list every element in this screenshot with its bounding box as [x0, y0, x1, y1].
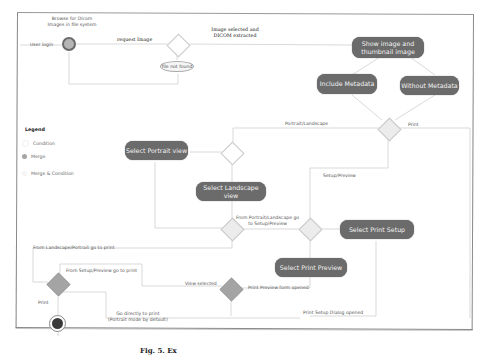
actor-label: User login	[30, 42, 53, 48]
edge-view-selected: View selected	[185, 281, 217, 287]
legend-item-merge: Merge	[22, 154, 45, 159]
initial-node	[62, 37, 76, 51]
node-select-print-preview: Select Print Preview	[275, 258, 347, 277]
edge-from-landscape-portrait-to-print: From Landscape/Portrait go to print	[33, 245, 114, 251]
edge-print: Print	[408, 122, 419, 128]
node-include-metadata: Include Metadata	[317, 74, 377, 94]
legend-title: Legend	[25, 127, 45, 132]
figure-caption: Fig. 5. Ex	[140, 346, 177, 355]
merge-condition-swatch-icon	[22, 171, 27, 176]
node-select-portrait: Select Portrait view	[125, 141, 188, 160]
edge-request-image: request Image	[117, 37, 152, 43]
edge-go-directly-to-print: Go directly to print (Portrait mode by d…	[108, 311, 168, 322]
guard-file-not-found: file not found	[160, 61, 194, 72]
edge-print-preview-form-opened: Print Preview form opened	[248, 285, 309, 291]
final-node	[49, 315, 66, 332]
edge-print-setup-dialog-opened: Print Setup Dialog opened	[303, 310, 363, 316]
edge-portrait-landscape: Portrait/Landscape	[285, 121, 328, 127]
edge-image-selected: Image selected and DICOM extracted	[205, 27, 265, 38]
node-without-metadata: Without Metadata	[400, 76, 459, 95]
merge-swatch-icon	[22, 154, 27, 159]
start-note: Browse for Dicom Images in file system	[42, 16, 102, 27]
condition-swatch-icon	[22, 140, 29, 147]
edge-from-setup-preview-to-print: From Setup/Preview go to print	[66, 268, 137, 274]
node-select-print-setup: Select Print Setup	[340, 220, 414, 239]
edge-from-portrait-landscape-to-setup: From Portrait/Landscape go to Setup/Prev…	[236, 215, 299, 226]
legend-item-merge-condition: Merge & Condition	[22, 171, 74, 176]
node-show-image: Show image and thumbnail image	[352, 37, 424, 58]
edge-print-final: Print	[38, 300, 49, 306]
edge-setup-preview: Setup/Preview	[323, 173, 356, 179]
legend-label: Merge & Condition	[31, 171, 74, 176]
node-select-landscape: Select Landscape view	[196, 182, 266, 201]
legend-item-condition: Condition	[22, 140, 55, 147]
legend-label: Condition	[33, 141, 55, 146]
legend-label: Merge	[31, 154, 45, 159]
